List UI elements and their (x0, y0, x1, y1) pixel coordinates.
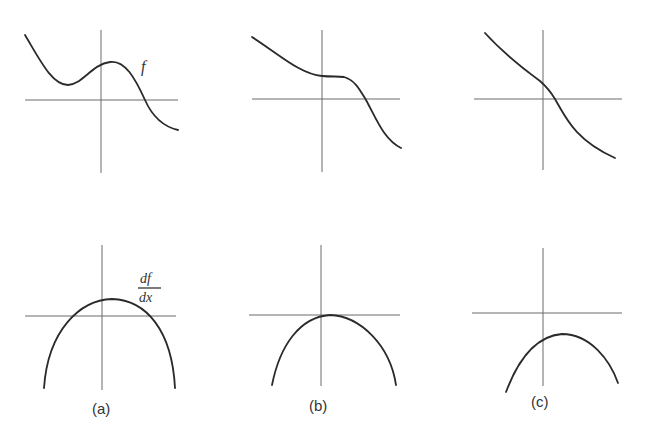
panel-a-function-plot: f (25, 30, 178, 173)
panel-b-f-curve (252, 37, 401, 148)
panel-c-function-plot (474, 30, 622, 170)
panel-c-f-curve (485, 33, 615, 158)
panel-c-caption: (c) (531, 393, 549, 410)
panel-b-function-plot (252, 30, 401, 172)
panel-a-derivative-denominator: dx (139, 290, 153, 305)
panel-a-derivative-curve (44, 299, 175, 388)
derivative-diagram: f df dx (a) (b) (c) (0, 0, 652, 432)
panel-b-caption: (b) (309, 397, 327, 414)
panel-c-derivative-curve (506, 334, 618, 392)
panel-a-caption: (a) (92, 400, 110, 417)
panel-a-f-label: f (141, 58, 148, 76)
panel-a-derivative-plot: df dx (a) (25, 245, 176, 417)
panel-b-derivative-curve (272, 315, 396, 385)
panel-a-derivative-numerator: df (140, 271, 153, 286)
panel-b-derivative-plot: (b) (249, 245, 400, 414)
panel-c-derivative-plot: (c) (472, 248, 622, 410)
